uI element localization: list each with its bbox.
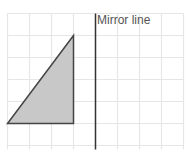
- reflection-grid-diagram: [0, 0, 191, 155]
- mirror-line-label: Mirror line: [97, 13, 150, 27]
